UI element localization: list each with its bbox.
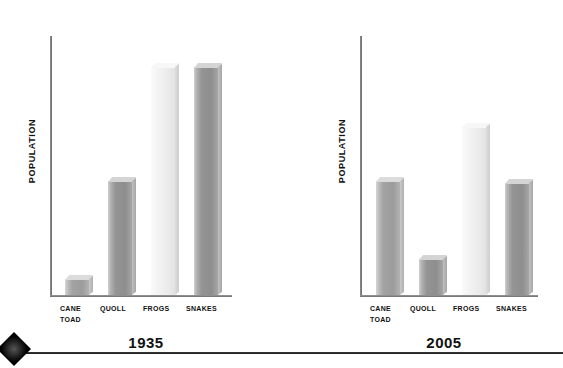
bar-1935-quoll	[108, 181, 132, 295]
population-comparison-figure: Population	[0, 0, 563, 368]
x-label-frogs-2005: Frogs	[453, 302, 496, 324]
bar-side-face	[175, 64, 179, 295]
plot-area-2005	[362, 36, 538, 295]
plot-area-1935	[52, 36, 232, 295]
bar-2005-frogs	[462, 127, 486, 295]
bar-face	[376, 181, 400, 295]
x-label-quoll-1935: Quoll	[100, 302, 143, 324]
y-axis-title-2005: Population	[334, 106, 348, 196]
panel-caption-2005: 2005	[398, 334, 490, 351]
bar-2005-quoll	[419, 259, 443, 295]
bar-side-face	[132, 178, 136, 295]
x-axis-labels-2005: Cane Toad Quoll Frogs Snakes	[370, 302, 546, 324]
bottom-horizontal-rule	[24, 352, 563, 354]
bar-side-face	[486, 124, 490, 295]
bar-side-face	[89, 276, 93, 295]
bar-face	[65, 279, 89, 295]
bar-2005-cane-toad	[376, 181, 400, 295]
bar-side-face	[218, 64, 222, 295]
bar-1935-cane-toad	[65, 279, 89, 295]
bar-side-face	[443, 256, 447, 295]
y-axis-title-1935: Population	[24, 106, 38, 196]
x-label-cane-toad-2005: Cane Toad	[370, 302, 410, 324]
panel-caption-1935: 1935	[100, 334, 192, 351]
x-axis-line-1935	[50, 295, 232, 297]
x-label-cane-toad-1935: Cane Toad	[60, 302, 100, 324]
bar-face	[462, 127, 486, 295]
bar-face	[419, 259, 443, 295]
x-label-quoll-2005: Quoll	[410, 302, 453, 324]
bar-2005-snakes	[505, 183, 529, 295]
bar-face	[505, 183, 529, 295]
bar-1935-snakes	[194, 67, 218, 295]
x-axis-labels-1935: Cane Toad Quoll Frogs Snakes	[60, 302, 240, 324]
x-label-snakes-1935: Snakes	[186, 302, 234, 324]
chart-panel-2005: Population	[290, 0, 563, 368]
x-label-frogs-1935: Frogs	[143, 302, 186, 324]
bar-side-face	[400, 178, 404, 295]
bar-1935-frogs	[151, 67, 175, 295]
chart-panel-1935: Population	[0, 0, 290, 368]
x-axis-line-2005	[360, 295, 538, 297]
bar-face	[194, 67, 218, 295]
x-label-snakes-2005: Snakes	[496, 302, 544, 324]
bar-face	[151, 67, 175, 295]
bar-side-face	[529, 180, 533, 295]
bar-face	[108, 181, 132, 295]
